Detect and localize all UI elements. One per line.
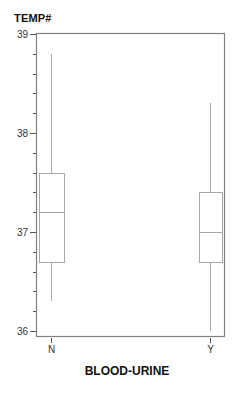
boxes: [40, 54, 223, 331]
y-tick-label: 39: [17, 29, 29, 40]
iqr-box: [40, 174, 65, 263]
x-tick-label-n: N: [48, 344, 55, 355]
boxplot-chart: 36373839 NY: [0, 0, 241, 394]
x-axis: NY: [48, 338, 214, 355]
y-axis: 36373839: [17, 29, 36, 337]
y-tick-label: 37: [17, 227, 29, 238]
y-tick-label: 38: [17, 128, 29, 139]
x-tick-label-y: Y: [207, 344, 214, 355]
box-n: [40, 54, 65, 301]
x-axis-title: BLOOD-URINE: [0, 364, 241, 378]
box-y: [200, 103, 223, 331]
iqr-box: [200, 193, 223, 263]
y-tick-label: 36: [17, 326, 29, 337]
